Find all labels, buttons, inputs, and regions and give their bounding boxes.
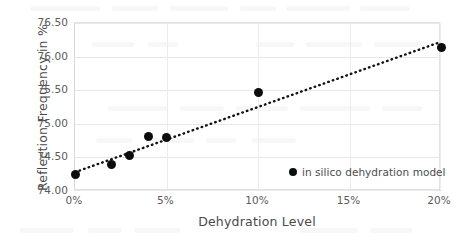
data-point [254, 88, 263, 97]
y-tick-label: 75.50 [22, 83, 68, 95]
x-axis-title: Dehydration Level [74, 214, 440, 229]
data-point [71, 170, 80, 179]
y-tick-label: 75.00 [22, 117, 68, 129]
legend-label: in silico dehydration model [302, 166, 446, 178]
y-axis-tick-labels: 76.50 76.00 75.50 75.00 74.50 74.00 [18, 0, 68, 245]
chart-legend: in silico dehydration model [289, 166, 446, 178]
x-tick-label: 10% [245, 194, 269, 206]
legend-marker-icon [289, 168, 297, 176]
x-tick-label: 5% [157, 194, 174, 206]
x-tick-label: 20% [427, 194, 451, 206]
y-axis-title-host: Reflection Frequency in % [14, 0, 15, 212]
chart-container: Reflection Frequency in % 76.50 76.00 75… [0, 0, 462, 245]
data-point [437, 43, 446, 52]
y-tick-label: 76.50 [22, 16, 68, 28]
y-tick-label: 74.00 [22, 184, 68, 196]
y-tick-label: 74.50 [22, 150, 68, 162]
plot-area: in silico dehydration model [74, 22, 440, 190]
y-tick-label: 76.00 [22, 50, 68, 62]
x-tick-label: 0% [66, 194, 83, 206]
data-point [162, 133, 171, 142]
x-tick-label: 15% [337, 194, 361, 206]
data-point [144, 132, 153, 141]
